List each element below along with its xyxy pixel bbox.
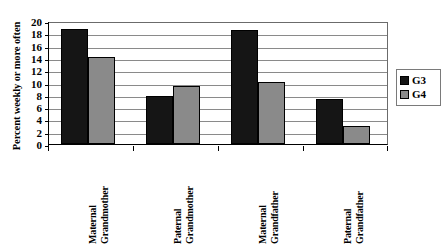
bars-layer	[49, 23, 387, 144]
bar	[61, 29, 88, 144]
x-axis-category-label-line: Maternal	[257, 191, 269, 244]
plot-area	[48, 22, 388, 145]
x-axis-category-label-line: Paternal	[172, 186, 184, 244]
x-axis-category-label-line: Grandfather	[269, 191, 281, 244]
legend-item: G3	[400, 74, 437, 87]
legend-label: G4	[412, 89, 426, 100]
legend-item: G4	[400, 88, 437, 101]
bar-group	[134, 23, 219, 144]
legend-swatch-icon	[400, 90, 409, 99]
bar-group	[219, 23, 304, 144]
y-axis-tick-label: 2	[22, 127, 42, 138]
x-axis-tick-mark	[303, 146, 304, 151]
bar-group	[49, 23, 134, 144]
y-axis-tick-label: 18	[22, 29, 42, 40]
bar	[231, 30, 258, 144]
y-axis-tick-label: 4	[22, 115, 42, 126]
bar	[146, 96, 173, 144]
y-axis-tick-labels: 20181614121086420	[22, 22, 42, 145]
y-axis-tick-label: 16	[22, 41, 42, 52]
x-axis-category-label-line: Grandmother	[99, 186, 111, 244]
bar-group	[304, 23, 389, 144]
x-axis-category-label-line: Paternal	[342, 191, 354, 244]
x-axis-tick-mark	[48, 146, 49, 151]
legend-label: G3	[412, 75, 426, 86]
bar	[343, 126, 370, 144]
bar	[258, 82, 285, 144]
x-axis-category-label: MaternalGrandmother	[72, 152, 102, 244]
x-axis-category-label-line: Grandmother	[184, 186, 196, 244]
x-axis-category-label-line: Grandfather	[354, 191, 366, 244]
y-axis-tick-label: 12	[22, 66, 42, 77]
bar	[173, 86, 200, 144]
y-axis-tick-label: 8	[22, 90, 42, 101]
y-axis-tick-label: 10	[22, 78, 42, 89]
y-axis-tick-label: 14	[22, 53, 42, 64]
x-axis-tick-mark	[387, 146, 388, 151]
legend-swatch-icon	[400, 76, 409, 85]
y-axis-tick-label: 20	[22, 17, 42, 28]
y-axis-tick-label: 6	[22, 103, 42, 114]
x-axis-category-label: PaternalGrandfather	[327, 152, 357, 244]
x-axis-tick-mark	[133, 146, 134, 151]
y-axis-tick-label: 0	[22, 140, 42, 151]
legend: G3G4	[396, 69, 441, 106]
bar	[316, 99, 343, 144]
x-axis-category-label-line: Maternal	[87, 186, 99, 244]
x-axis-category-labels: MaternalGrandmotherPaternalGrandmotherMa…	[48, 152, 388, 244]
x-axis-category-label: MaternalGrandfather	[242, 152, 272, 244]
x-axis-tick-mark	[218, 146, 219, 151]
bar-chart: Percent weekly or more often 20181614121…	[0, 0, 443, 244]
bar	[88, 57, 115, 144]
y-axis-title-container: Percent weekly or more often	[2, 68, 20, 86]
x-axis-category-label: PaternalGrandmother	[157, 152, 187, 244]
